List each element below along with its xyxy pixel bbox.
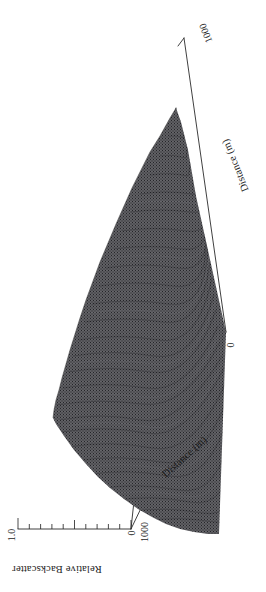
surface-plot-figure: Relative Backscatter 1.0 0 1000 Distance… (0, 0, 266, 592)
backscatter-surface (53, 108, 240, 534)
x-axis-tip (178, 38, 184, 46)
x-axis-tick-label-min: 0 (226, 343, 236, 348)
z-axis-tick-label-max: 1.0 (7, 529, 17, 542)
z-axis-tick-label-min: 0 (127, 531, 137, 536)
y-axis-tick-label-max: 1000 (140, 522, 150, 542)
plot-canvas (0, 0, 266, 592)
z-axis-ticks (18, 518, 131, 529)
z-axis-title: Relative Backscatter (0, 563, 142, 574)
